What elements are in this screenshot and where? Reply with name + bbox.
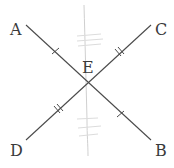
point-label-d: D (10, 141, 23, 160)
geometry-diagram: A C E D B (0, 0, 174, 168)
point-label-c: C (155, 20, 167, 39)
point-label-e: E (82, 58, 94, 77)
tick-mark-ae (52, 48, 59, 54)
double-tick-mark-ed (54, 104, 63, 113)
point-label-b: B (155, 141, 167, 160)
point-label-a: A (9, 20, 22, 39)
